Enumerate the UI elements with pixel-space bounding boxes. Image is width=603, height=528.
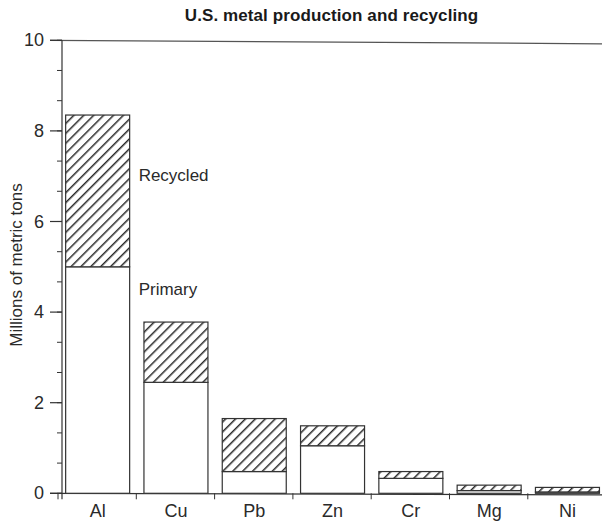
bar-chart-plot: 0246810Millions of metric tonsAlCuPbZnCr… xyxy=(0,0,603,528)
bar-recycled-al xyxy=(66,115,130,267)
bar-recycled-pb xyxy=(222,419,286,472)
top-border-line xyxy=(50,40,602,44)
x-tick-label: Ni xyxy=(559,501,576,521)
x-tick-label: Cu xyxy=(164,501,187,521)
bar-primary-pb xyxy=(222,472,286,494)
y-tick-label: 0 xyxy=(34,483,44,503)
y-tick-label: 2 xyxy=(34,393,44,413)
bar-recycled-cu xyxy=(144,322,208,382)
annotation-recycled: Recycled xyxy=(139,166,209,185)
y-tick-label: 10 xyxy=(24,30,44,50)
x-tick-label: Mg xyxy=(477,501,502,521)
x-tick-label: Al xyxy=(90,501,106,521)
y-tick-label: 4 xyxy=(34,302,44,322)
y-axis-title: Millions of metric tons xyxy=(7,183,26,346)
x-tick-label: Pb xyxy=(243,501,265,521)
bar-recycled-ni xyxy=(535,487,599,492)
bar-recycled-mg xyxy=(457,485,521,490)
annotation-primary: Primary xyxy=(139,280,198,299)
bar-primary-zn xyxy=(301,446,365,494)
bar-primary-al xyxy=(66,267,130,494)
y-tick-label: 8 xyxy=(34,121,44,141)
bar-primary-cu xyxy=(144,382,208,493)
y-tick-label: 6 xyxy=(34,212,44,232)
chart-title: U.S. metal production and recycling xyxy=(0,6,603,26)
bar-primary-cr xyxy=(379,478,443,493)
bar-recycled-cr xyxy=(379,472,443,479)
x-tick-label: Cr xyxy=(401,501,420,521)
x-tick-label: Zn xyxy=(322,501,343,521)
bar-recycled-zn xyxy=(301,426,365,446)
chart-container: U.S. metal production and recycling 0246… xyxy=(0,0,603,528)
